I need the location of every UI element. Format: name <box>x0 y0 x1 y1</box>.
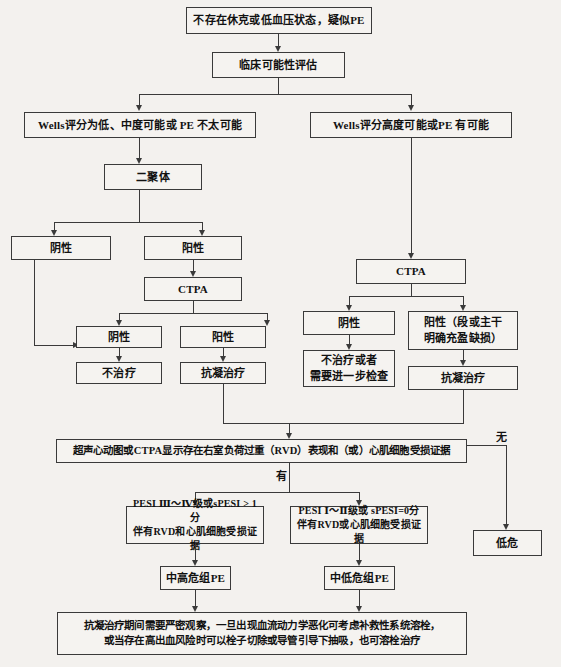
connector-intermediate-high-down <box>195 590 196 607</box>
connector-pesi-high-down <box>195 544 196 561</box>
connector-clinical-split <box>139 94 411 95</box>
connector-ctpa-left-down <box>193 301 194 313</box>
connector-ctpa-right-down <box>411 284 412 296</box>
connector-ddimer-split <box>54 222 202 223</box>
node-ctpa-left-positive: 阳性 <box>180 326 266 348</box>
connector-rvd-no-branch <box>467 445 506 446</box>
pe-diagnosis-flowchart: 不存在休克或低血压状态，疑似PE 临床可能性评估 Wells评分为低、中度可能或… <box>0 0 561 667</box>
node-intermediate-low-pe: 中低危组PE <box>324 566 395 590</box>
node-anticoagulation-right: 抗凝治疗 <box>408 366 518 390</box>
connector-dd-negative-down <box>34 260 35 345</box>
node-d-dimer: 二聚体 <box>104 164 202 190</box>
connector-anticoag-left-to-trunk <box>223 423 289 424</box>
node-clinical-probability: 临床可能性评估 <box>212 52 345 78</box>
connector-anticoag-right-to-trunk <box>289 423 464 424</box>
node-suspect-pe: 不存在休克或低血压状态，疑似PE <box>186 7 372 34</box>
node-management: 抗凝治疗期间需要严密观察，一旦出现血流动力学恶化可考虑补救性系统溶栓， 或当存在… <box>57 612 467 655</box>
node-ddimer-negative: 阴性 <box>11 236 111 260</box>
connector-intermediate-low-down <box>359 590 360 607</box>
node-ddimer-positive: 阳性 <box>144 236 242 260</box>
node-wells-low-moderate: Wells评分为低、中度可能或 PE 不太可能 <box>24 112 256 138</box>
edge-label-no-rvd: 无 <box>496 428 507 444</box>
connector-anticoag-right-down <box>463 390 464 423</box>
connector-clinical-down <box>278 78 279 94</box>
node-ctpa-left: CTPA <box>144 277 242 301</box>
node-ctpa-left-negative: 阴性 <box>76 326 162 348</box>
arrow-to-wells-high <box>408 105 414 111</box>
node-intermediate-high-pe: 中高危组PE <box>160 566 231 590</box>
node-ctpa-right: CTPA <box>356 259 466 284</box>
connector-ctpa-left-split <box>119 313 267 314</box>
node-rvd-assessment: 超声心动图或CTPA显示存在右室负荷过重（RVD）表现和（或）心肌细胞受损证据 <box>56 439 467 463</box>
arrow-to-wells-low <box>136 105 142 111</box>
connector-wells-high-to-ctpa <box>411 138 412 254</box>
node-no-treatment: 不治疗 <box>76 362 162 384</box>
connector-anticoag-left-down <box>223 384 224 423</box>
node-no-treatment-or-further: 不治疗或者 需要进一步检查 <box>303 350 395 387</box>
node-wells-high: Wells评分高度可能或PE 有可能 <box>310 112 512 138</box>
connector-ddimer-down <box>139 190 140 222</box>
connector-pesi-split <box>195 492 359 493</box>
connector-pesi-low-down <box>359 544 360 561</box>
connector-wells-low-to-ddimer <box>139 138 140 159</box>
edge-label-has-rvd: 有 <box>276 467 287 483</box>
node-pesi-low: PESI Ⅰ～Ⅱ级或 sPESI=0分 伴有RVD或心肌细胞受损证据 <box>290 506 428 544</box>
connector-dd-negative-right <box>34 345 74 346</box>
node-pesi-high: PESI Ⅲ～Ⅳ级或sPESI > 1分 伴有RVD和心肌细胞受损证据 <box>126 506 264 544</box>
connector-rvd-yes-down <box>289 463 290 492</box>
connector-rvd-no-down <box>506 445 507 525</box>
node-low-risk: 低危 <box>473 530 542 556</box>
node-anticoagulation-left: 抗凝治疗 <box>180 362 266 384</box>
connector-ctpa-right-split <box>349 296 463 297</box>
node-ctpa-right-negative: 阴性 <box>303 311 395 335</box>
node-ctpa-right-positive: 阳性（段或主干 明确充盈缺损） <box>408 311 518 350</box>
